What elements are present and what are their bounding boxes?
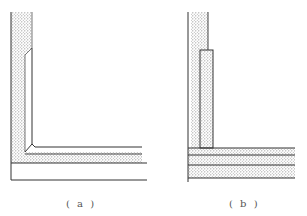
- panel-a-inner-liner-chamfer: [32, 144, 142, 147]
- panel-a-caption: ( a ): [66, 198, 96, 209]
- panel-b-horizontal-dotted-bands: [188, 148, 295, 178]
- panel-a: [11, 12, 147, 180]
- panel-b-insert-block: [200, 50, 213, 148]
- diagram-canvas: [0, 0, 307, 216]
- panel-a-inner-liner: [25, 48, 32, 152]
- panel-a-dotted-lining: [11, 12, 142, 163]
- panel-b-caption: ( b ): [229, 198, 260, 209]
- panel-b: [188, 12, 295, 182]
